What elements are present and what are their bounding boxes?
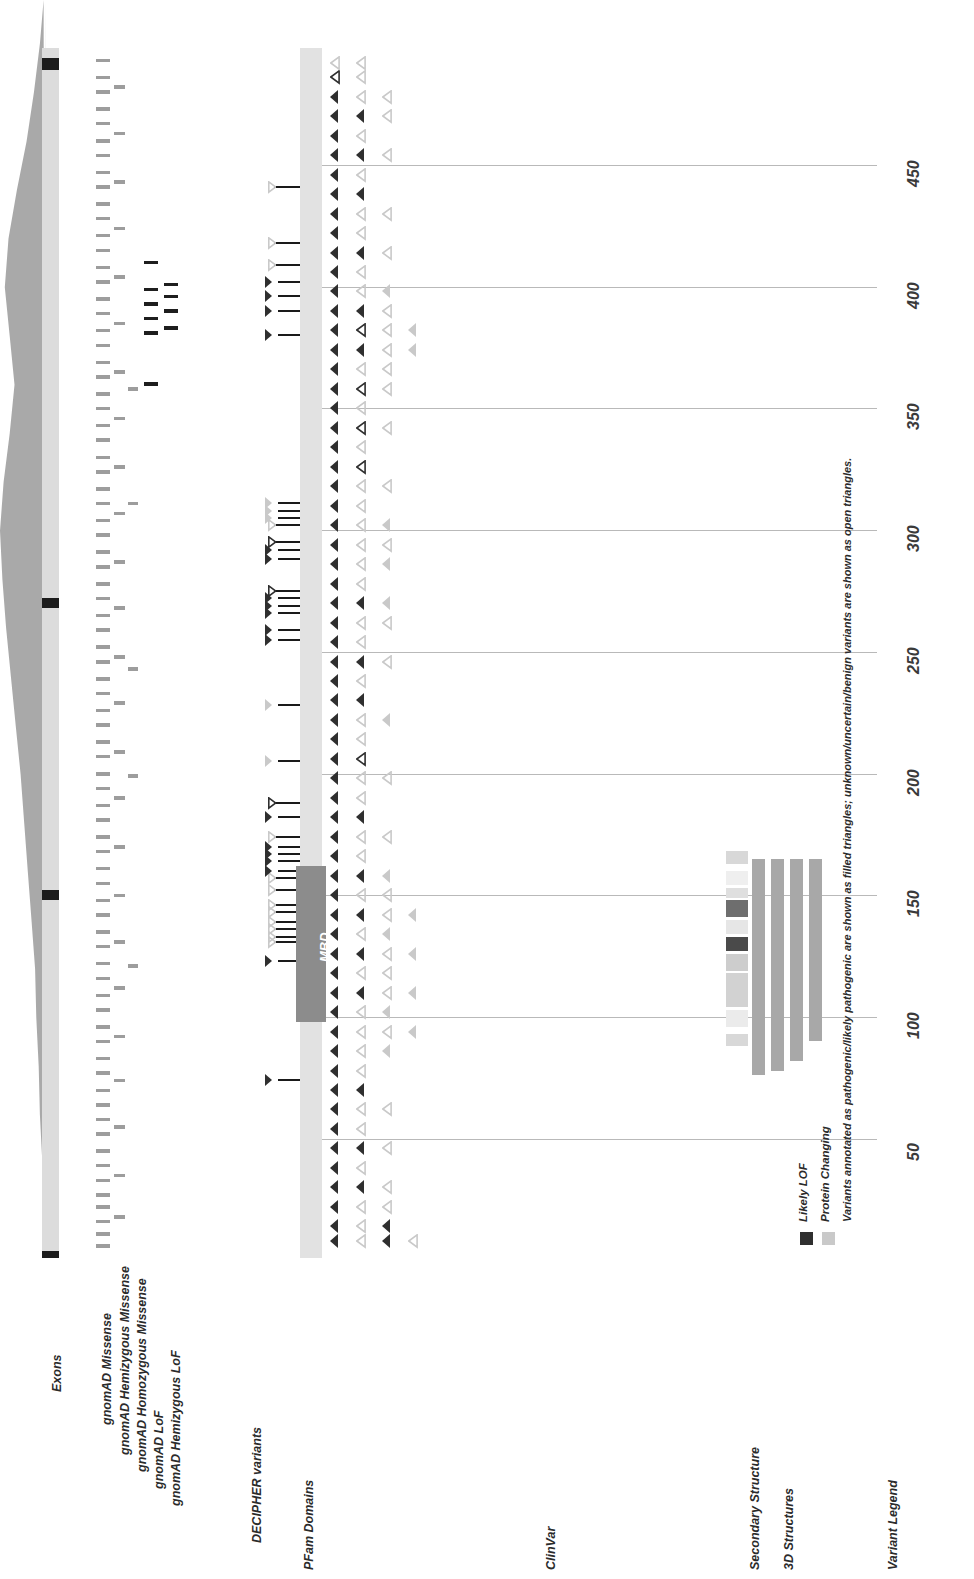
clinvar-variant-marker[interactable] (382, 109, 390, 123)
clinvar-variant-marker[interactable] (408, 908, 416, 922)
gnomad-hemizygous-missense-tick[interactable] (114, 85, 125, 89)
gnomad-missense-tick[interactable] (96, 867, 110, 871)
gnomad-missense-tick[interactable] (96, 565, 110, 569)
clinvar-variant-marker[interactable] (356, 1044, 364, 1058)
gnomad-missense-tick[interactable] (96, 280, 110, 284)
clinvar-variant-marker[interactable] (330, 1064, 338, 1078)
decipher-stem[interactable] (274, 836, 300, 838)
clinvar-variant-marker[interactable] (330, 499, 338, 513)
clinvar-variant-marker[interactable] (382, 986, 390, 1000)
gnomad-missense-tick[interactable] (96, 1244, 110, 1248)
clinvar-variant-marker[interactable] (356, 1005, 364, 1019)
decipher-stem[interactable] (278, 629, 300, 631)
clinvar-variant-marker[interactable] (356, 986, 364, 1000)
clinvar-variant-marker[interactable] (382, 1044, 390, 1058)
clinvar-variant-marker[interactable] (382, 1102, 390, 1116)
clinvar-variant-marker[interactable] (330, 90, 338, 104)
clinvar-variant-marker[interactable] (382, 538, 390, 552)
gnomad-hemizygous-missense-tick[interactable] (114, 845, 125, 849)
clinvar-variant-marker[interactable] (330, 1219, 338, 1233)
decipher-stem[interactable] (278, 502, 300, 504)
gnomad-missense-tick[interactable] (96, 1103, 110, 1107)
clinvar-variant-marker[interactable] (356, 109, 364, 123)
gnomad-missense-tick[interactable] (96, 1220, 110, 1224)
exon-segment[interactable] (42, 58, 59, 70)
clinvar-variant-marker[interactable] (356, 927, 364, 941)
exon-segment[interactable] (42, 1251, 59, 1258)
decipher-stem[interactable] (274, 590, 300, 592)
clinvar-variant-marker[interactable] (330, 732, 338, 746)
clinvar-variant-marker[interactable] (382, 323, 390, 337)
clinvar-variant-marker[interactable] (382, 557, 390, 571)
gnomad-missense-tick[interactable] (96, 329, 110, 333)
gnomad-hemizygous-missense-tick[interactable] (114, 1174, 125, 1178)
clinvar-variant-marker[interactable] (356, 1102, 364, 1116)
clinvar-variant-marker[interactable] (356, 771, 364, 785)
clinvar-variant-marker[interactable] (356, 1234, 364, 1248)
gnomad-hemizygous-missense-tick[interactable] (114, 940, 125, 944)
gnomad-lof-tick[interactable] (144, 261, 158, 265)
clinvar-variant-marker[interactable] (356, 148, 364, 162)
decipher-stem[interactable] (274, 541, 300, 543)
gnomad-missense-tick[interactable] (96, 344, 110, 348)
clinvar-variant-marker[interactable] (408, 1025, 416, 1039)
gnomad-hemizygous-lof-tick[interactable] (164, 309, 178, 313)
decipher-variant-marker[interactable] (265, 1074, 272, 1086)
gnomad-missense-tick[interactable] (96, 930, 110, 934)
clinvar-variant-marker[interactable] (330, 752, 338, 766)
clinvar-variant-marker[interactable] (330, 947, 338, 961)
gnomad-hemizygous-missense-tick[interactable] (114, 894, 125, 898)
gnomad-missense-tick[interactable] (96, 249, 110, 253)
decipher-stem[interactable] (278, 760, 300, 762)
gnomad-missense-tick[interactable] (96, 1149, 110, 1153)
decipher-stem[interactable] (278, 605, 300, 607)
gnomad-missense-tick[interactable] (96, 772, 110, 776)
clinvar-variant-marker[interactable] (382, 284, 390, 298)
decipher-variant-marker[interactable] (261, 536, 268, 548)
clinvar-variant-marker[interactable] (330, 187, 338, 201)
gnomad-missense-tick[interactable] (96, 645, 110, 649)
clinvar-variant-marker[interactable] (330, 908, 338, 922)
clinvar-variant-marker[interactable] (356, 1161, 364, 1175)
clinvar-variant-marker[interactable] (356, 304, 364, 318)
clinvar-variant-marker[interactable] (356, 1025, 364, 1039)
gnomad-missense-tick[interactable] (96, 692, 110, 696)
gnomad-missense-tick[interactable] (96, 1205, 110, 1209)
clinvar-variant-marker[interactable] (408, 947, 416, 961)
gnomad-hemizygous-missense-tick[interactable] (114, 417, 125, 421)
clinvar-variant-marker[interactable] (330, 538, 338, 552)
decipher-stem[interactable] (278, 612, 300, 614)
clinvar-variant-marker[interactable] (330, 362, 338, 376)
clinvar-variant-marker[interactable] (356, 499, 364, 513)
clinvar-variant-marker[interactable] (356, 362, 364, 376)
clinvar-variant-marker[interactable] (330, 616, 338, 630)
gnomad-missense-tick[interactable] (96, 1025, 110, 1029)
gnomad-missense-tick[interactable] (96, 582, 110, 586)
gnomad-missense-tick[interactable] (96, 977, 110, 981)
gnomad-missense-tick[interactable] (96, 1132, 110, 1136)
gnomad-hemizygous-missense-tick[interactable] (114, 465, 125, 469)
clinvar-variant-marker[interactable] (330, 596, 338, 610)
clinvar-variant-marker[interactable] (356, 869, 364, 883)
gnomad-missense-tick[interactable] (96, 945, 110, 949)
gnomad-hemizygous-lof-tick[interactable] (164, 326, 178, 330)
decipher-variant-marker[interactable] (265, 699, 272, 711)
secondary-structure-block[interactable] (726, 920, 748, 935)
decipher-variant-marker[interactable] (261, 884, 268, 896)
secondary-structure-block[interactable] (726, 900, 748, 917)
gnomad-missense-tick[interactable] (96, 59, 110, 63)
clinvar-variant-marker[interactable] (356, 947, 364, 961)
clinvar-variant-marker[interactable] (356, 479, 364, 493)
clinvar-variant-marker[interactable] (382, 966, 390, 980)
secondary-structure-block[interactable] (726, 1010, 748, 1027)
gnomad-missense-tick[interactable] (96, 1089, 110, 1093)
gnomad-hemizygous-missense-tick[interactable] (114, 512, 125, 516)
decipher-variant-marker[interactable] (261, 237, 268, 249)
gnomad-missense-tick[interactable] (96, 424, 110, 428)
decipher-stem[interactable] (274, 186, 300, 188)
clinvar-variant-marker[interactable] (330, 382, 338, 396)
gnomad-missense-tick[interactable] (96, 1232, 110, 1236)
clinvar-variant-marker[interactable] (382, 947, 390, 961)
clinvar-variant-marker[interactable] (330, 1102, 338, 1116)
clinvar-variant-marker[interactable] (356, 635, 364, 649)
